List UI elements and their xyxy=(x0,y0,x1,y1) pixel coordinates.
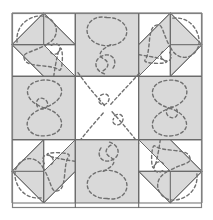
quilt-block-diagram xyxy=(0,0,213,220)
block-center xyxy=(75,73,140,145)
quilt-canvas xyxy=(0,0,213,220)
block-middle-right xyxy=(139,76,202,139)
block-bottom-center xyxy=(75,140,138,203)
block-middle-left xyxy=(12,76,75,139)
quilt-blocks xyxy=(12,13,202,203)
patch-centre-square xyxy=(75,76,138,139)
block-top-center xyxy=(75,13,138,76)
